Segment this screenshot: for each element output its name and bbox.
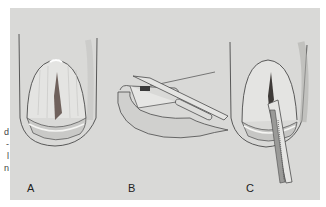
caption-fragment: n (0, 162, 9, 174)
panel-a-nail-illustration (19, 34, 97, 146)
panel-label-b: B (128, 182, 135, 194)
cropped-caption-text: d - l n (0, 126, 9, 174)
illustration-panel: A B C (10, 8, 320, 200)
panel-c-instrument-illustration (230, 42, 307, 183)
panel-label-c: C (246, 182, 254, 194)
caption-fragment: d (0, 126, 9, 138)
caption-fragment: l (0, 150, 9, 162)
caption-fragment: - (0, 138, 9, 150)
panel-label-a: A (27, 182, 34, 194)
panel-b-scalpel-illustration (118, 72, 228, 138)
